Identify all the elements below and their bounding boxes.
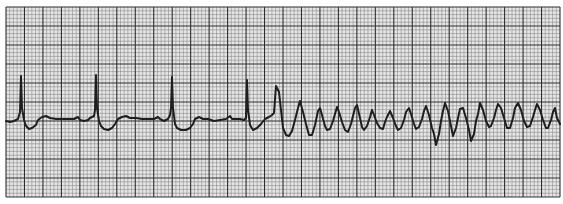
ecg-strip: [0, 0, 563, 204]
